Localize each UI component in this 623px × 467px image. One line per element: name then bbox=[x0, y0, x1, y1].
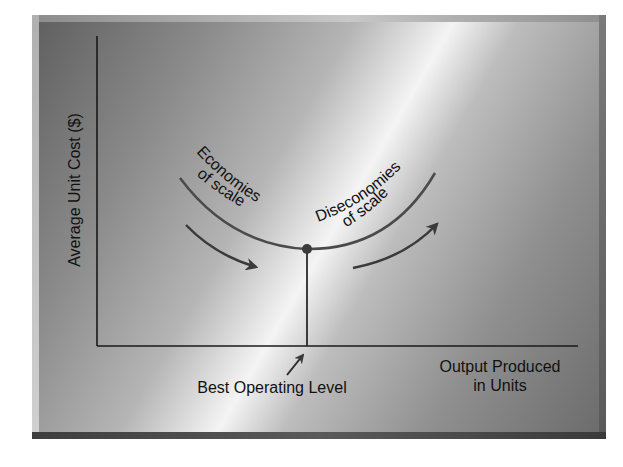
optimum-point bbox=[302, 244, 312, 254]
economies-arrow-icon bbox=[186, 225, 256, 267]
x-axis-label-line2: in Units bbox=[473, 377, 526, 394]
y-axis-label: Average Unit Cost ($) bbox=[66, 113, 83, 267]
optimum-pointer-arrow-icon bbox=[287, 355, 303, 375]
average-cost-diagram: Average Unit Cost ($) Economies of scale… bbox=[0, 0, 623, 467]
diseconomies-arrow-icon bbox=[353, 224, 437, 268]
optimum-label: Best Operating Level bbox=[197, 379, 346, 396]
x-axis-label-line1: Output Produced bbox=[440, 358, 561, 375]
